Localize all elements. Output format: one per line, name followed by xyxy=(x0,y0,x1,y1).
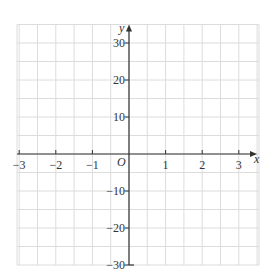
y-tick-label: −30 xyxy=(106,258,125,272)
tick-labels: −3−2−1123302010−10−20−30xyO xyxy=(13,21,260,273)
y-tick-label: 20 xyxy=(113,73,125,87)
grid-lines xyxy=(17,25,259,266)
y-tick-label: −10 xyxy=(106,184,125,198)
x-tick-label: 1 xyxy=(163,158,169,172)
y-tick-label: 30 xyxy=(113,36,125,50)
y-tick-label: −20 xyxy=(106,221,125,235)
x-tick-label: −3 xyxy=(13,158,26,172)
y-axis-arrow-icon xyxy=(126,25,132,32)
x-tick-label: −1 xyxy=(86,158,99,172)
y-tick-label: 10 xyxy=(113,110,125,124)
x-axis-label: x xyxy=(253,152,260,166)
x-tick-label: 2 xyxy=(199,158,205,172)
x-tick-label: 3 xyxy=(236,158,242,172)
coordinate-grid: −3−2−1123302010−10−20−30xyO xyxy=(0,0,267,279)
origin-label: O xyxy=(117,155,126,169)
x-tick-label: −2 xyxy=(49,158,62,172)
y-axis-label: y xyxy=(118,21,125,35)
